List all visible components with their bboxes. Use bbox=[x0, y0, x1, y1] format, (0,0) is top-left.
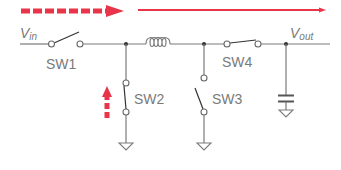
sw4-label: SW4 bbox=[222, 54, 253, 70]
solid-horizontal-arrow bbox=[138, 8, 326, 13]
sw2-switch bbox=[123, 44, 129, 143]
dashed-vertical-arrow bbox=[102, 86, 112, 118]
dashed-horizontal-arrow bbox=[21, 5, 124, 17]
sw1-label: SW1 bbox=[46, 56, 77, 72]
sw1-switch bbox=[49, 32, 84, 47]
ground-icon bbox=[279, 110, 293, 117]
capacitor bbox=[278, 44, 294, 110]
vin-label: Vin bbox=[20, 25, 38, 42]
inductor bbox=[146, 38, 170, 47]
sw2-label: SW2 bbox=[134, 91, 165, 107]
ground-icon bbox=[197, 143, 211, 150]
circuit-svg: Vin Vout SW1 SW2 SW3 SW4 bbox=[0, 0, 341, 170]
vout-label: Vout bbox=[290, 25, 314, 42]
sw3-switch bbox=[195, 44, 207, 143]
ground-icon bbox=[119, 143, 133, 150]
sw3-label: SW3 bbox=[212, 91, 243, 107]
sw4-switch bbox=[224, 40, 261, 47]
buck-boost-circuit-diagram: Vin Vout SW1 SW2 SW3 SW4 bbox=[0, 0, 341, 170]
